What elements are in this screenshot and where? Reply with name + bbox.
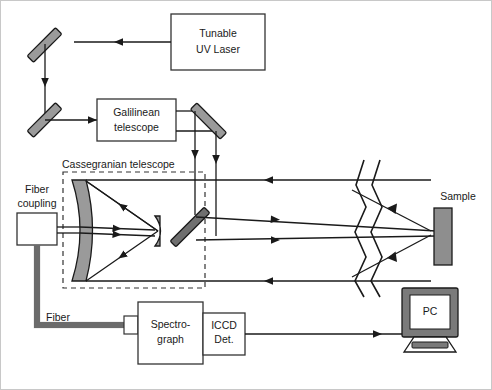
pc-monitor: PC bbox=[402, 288, 458, 352]
sample-ray-arrows bbox=[387, 204, 397, 263]
laser-box: Tunable UV Laser bbox=[171, 14, 265, 70]
optical-setup-diagram: Tunable UV Laser Galilinean bbox=[0, 0, 492, 390]
galilean-telescope-box: Galilinean telescope bbox=[97, 99, 176, 141]
spectrograph-label-line1: Spectro- bbox=[151, 318, 191, 330]
mirror-3 bbox=[190, 103, 226, 139]
signal-arrow-right bbox=[373, 330, 382, 338]
cassegrain-label: Cassegranian telescope bbox=[62, 158, 175, 170]
fiber-coupling-label-line2: coupling bbox=[17, 197, 56, 209]
laser-label-line1: Tunable bbox=[199, 27, 237, 39]
sample-label: Sample bbox=[440, 190, 476, 202]
arrow-diag-lower bbox=[387, 252, 397, 263]
iccd-label-line2: Det. bbox=[214, 333, 233, 345]
arrow-diag-upper bbox=[387, 204, 397, 215]
beam-arrow-down-a bbox=[191, 150, 199, 159]
fiber-coupling-label-line1: Fiber bbox=[25, 183, 49, 195]
fiber-coupling-box bbox=[17, 213, 57, 245]
diagram-canvas: Tunable UV Laser Galilinean bbox=[0, 0, 492, 390]
beam-arrow-down bbox=[41, 78, 49, 87]
pc-label: PC bbox=[423, 305, 438, 317]
beam-arrow-down-b bbox=[212, 155, 220, 164]
arrow-bottom-left bbox=[264, 277, 273, 285]
iccd-label-line1: ICCD bbox=[211, 319, 237, 331]
sample: Sample bbox=[434, 190, 476, 265]
iccd-box: ICCD Det. bbox=[203, 313, 245, 355]
fiber-coupling: Fiber coupling bbox=[17, 183, 80, 245]
arrow-top-left bbox=[264, 176, 273, 184]
laser-label-line2: UV Laser bbox=[196, 43, 240, 55]
beam-paths-to-sample bbox=[196, 180, 436, 281]
galilean-label-line1: Galilinean bbox=[113, 106, 160, 118]
mirror-4 bbox=[170, 207, 210, 247]
beam-mirror1-to-mirror2 bbox=[41, 44, 49, 119]
primary-mirror bbox=[72, 180, 93, 281]
beam-arrow-left bbox=[114, 38, 123, 46]
signal-iccd-to-pc bbox=[245, 330, 412, 338]
beam-laser-to-mirror1 bbox=[74, 38, 171, 46]
fiber-input-port bbox=[124, 316, 138, 334]
beam-direction-arrows bbox=[264, 176, 280, 285]
monitor-base-bar bbox=[412, 342, 448, 348]
arrow-lower-right bbox=[271, 236, 280, 244]
sample-block bbox=[434, 208, 452, 265]
beam-arrow-right bbox=[88, 116, 97, 124]
primary-mirror-shape bbox=[72, 180, 93, 281]
galilean-label-line2: telescope bbox=[114, 121, 159, 133]
spectrograph-label-line2: graph bbox=[157, 333, 184, 345]
spectrograph-box: Spectro- graph bbox=[138, 302, 203, 364]
fiber-label: Fiber bbox=[46, 311, 70, 323]
